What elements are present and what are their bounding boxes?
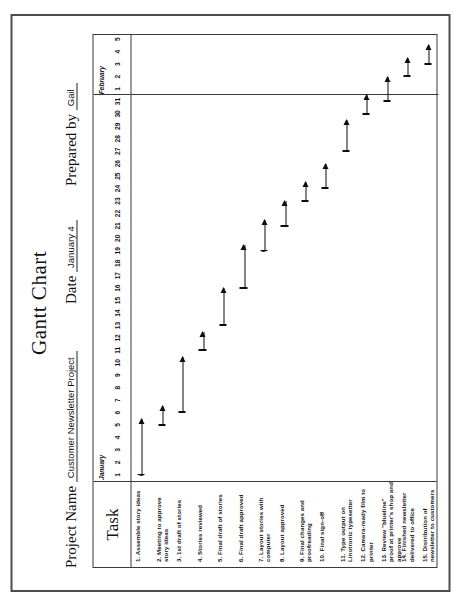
day-tick: 14 [113,307,120,319]
field-date: Date January 4 [62,220,79,304]
day-tick: 15 [113,295,120,307]
gantt-bar-arrowhead [138,418,144,424]
gantt-bar-start-cap [199,350,205,351]
task-label: 12. Camera-ready film to printer [358,482,373,562]
day-tick: 27 [113,145,120,157]
gantt-bar-arrowhead [425,44,431,50]
task-label: 13. Review "blueline" proof at printer's… [379,482,401,562]
day-tick: 18 [113,257,120,269]
day-tick: 19 [113,245,120,257]
month-divider-header [93,94,131,95]
day-tick: 29 [113,120,120,132]
task-label: 15. Distribution of newsletter to custom… [420,482,435,562]
gantt-bar-start-cap [383,101,389,102]
task-label: 9. Final changes and proofreading [297,482,312,562]
gantt-bar-arrowhead [240,244,246,250]
gantt-bar-arrowhead [179,356,185,362]
gantt-bar-arrowhead [302,181,308,187]
day-tick: 23 [113,195,120,207]
month-label-january: January [97,455,104,480]
field-prepared-by: Prepared by Gail [62,83,79,186]
day-tick: 22 [113,207,120,219]
day-tick: 26 [113,158,120,170]
gantt-bar-arrowhead [322,163,328,169]
task-label: 8. Layout approved [277,482,284,562]
gantt-bar-arrowhead [343,119,349,125]
day-tick: 9 [113,369,120,381]
day-tick: 8 [113,382,120,394]
month-divider [131,94,438,95]
day-tick: 10 [113,357,120,369]
day-tick: 7 [113,394,120,406]
gantt-bar-start-cap [404,76,410,77]
gantt-bar-start-cap [260,251,266,252]
task-label: 7. Layout stories with computer [256,482,271,562]
day-tick: 1 [113,469,120,481]
gantt-bar-arrowhead [220,287,226,293]
gantt-bar-line [244,245,245,289]
task-label: 4. Stories reviewed [195,482,202,562]
gantt-bar-arrowhead [281,200,287,206]
day-tick: 3 [113,58,120,70]
day-tick: 17 [113,270,120,282]
task-label: 1. Assemble story ideas [133,482,140,562]
task-column: Task 1. Assemble story ideas2. Meeting t… [93,481,436,567]
day-tick: 21 [113,220,120,232]
task-label: 3. 1st draft of stories [174,482,181,562]
day-tick: 24 [113,183,120,195]
gantt-bar-arrowhead [384,76,390,82]
gantt-bar-start-cap [158,425,164,426]
task-column-header: Task [93,482,131,567]
task-label: 2. Meeting to approve story ideas [154,482,169,562]
day-tick: 2 [113,456,120,468]
day-tick: 2 [113,71,120,83]
chart-area: JanuaryFebruary1234567891011121314151617… [93,35,436,481]
task-label: 11. Type output on Linotronic typesetter [338,482,353,562]
field-project-name: Project Name Customer Newsletter Project [62,351,79,568]
day-tick: 31 [113,95,120,107]
gantt-bar-arrowhead [404,57,410,63]
field-project-name-value[interactable]: Customer Newsletter Project [64,351,77,482]
field-project-name-label: Project Name [62,486,78,568]
screenshot-frame: Gantt Chart Project Name Customer Newsle… [0,0,465,600]
field-date-label: Date [62,276,78,304]
field-date-value[interactable]: January 4 [64,220,77,272]
plot-area [131,35,438,481]
gantt-bar-start-cap [281,226,287,227]
form-page: Gantt Chart Project Name Customer Newsle… [10,14,450,592]
gantt-bar-start-cap [342,151,348,152]
day-tick: 3 [113,444,120,456]
day-tick: 16 [113,282,120,294]
task-label: 10. Final sign-off [317,482,324,562]
date-axis: JanuaryFebruary1234567891011121314151617… [93,35,131,481]
task-label: 6. Final draft approved [236,482,243,562]
gantt-bar-start-cap [424,64,430,65]
task-list: 1. Assemble story ideas2. Meeting to app… [131,482,438,567]
gantt-bar-start-cap [363,114,369,115]
day-tick: 5 [113,33,120,45]
task-label: 14. Finished newsletter delivered to off… [399,482,414,562]
task-label: 5. Final draft of stories [215,482,222,562]
day-tick: 13 [113,319,120,331]
gantt-bar-arrowhead [261,219,267,225]
day-tick: 28 [113,133,120,145]
day-tick: 5 [113,419,120,431]
day-tick: 25 [113,170,120,182]
gantt-table: Task 1. Assemble story ideas2. Meeting t… [92,34,437,568]
gantt-chart-sheet: Gantt Chart Project Name Customer Newsle… [0,0,465,600]
day-tick: 20 [113,232,120,244]
gantt-bar-arrowhead [199,331,205,337]
field-prepared-by-label: Prepared by [62,114,78,186]
day-tick: 4 [113,46,120,58]
gantt-bar-start-cap [322,188,328,189]
page-title: Gantt Chart [26,16,51,590]
gantt-bar-start-cap [220,325,226,326]
gantt-bar-arrowhead [363,94,369,100]
field-prepared-by-value[interactable]: Gail [64,83,77,110]
gantt-bar-line [141,419,142,475]
day-tick: 6 [113,407,120,419]
day-tick: 4 [113,431,120,443]
gantt-bar-line [182,357,183,413]
gantt-bar-line [223,288,224,325]
day-tick: 11 [113,344,120,356]
